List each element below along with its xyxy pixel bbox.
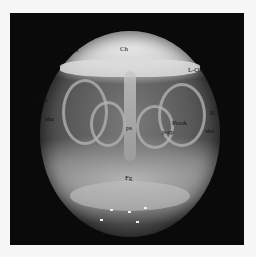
label-p-cp: p-cp	[162, 128, 174, 136]
pituitary-stalk	[124, 71, 136, 161]
label-sha-left: sha	[45, 115, 54, 123]
label-r-on: R-ON	[62, 46, 78, 54]
label-ica-right: ICA	[210, 109, 221, 117]
highlight	[144, 207, 147, 209]
figure-panel: Ch R-ON L-ON ICA ICA sha sha ps PcoA p-c…	[10, 13, 244, 245]
vessel-center-left	[90, 101, 126, 147]
highlight	[100, 219, 103, 221]
highlight	[136, 221, 139, 223]
endoscopic-view	[40, 31, 220, 237]
label-ch: Ch	[120, 45, 128, 53]
highlight	[110, 209, 113, 211]
label-ica-left: ICA	[36, 96, 47, 104]
label-sha-right: sha	[205, 127, 214, 135]
label-fg: Fg	[125, 174, 132, 182]
label-ps: ps	[126, 124, 132, 132]
sellar-floor	[70, 181, 190, 211]
label-pcom: PcoA	[172, 119, 187, 127]
highlight	[128, 211, 131, 213]
label-l-on: L-ON	[188, 66, 204, 74]
vessel-center-right	[136, 105, 174, 149]
